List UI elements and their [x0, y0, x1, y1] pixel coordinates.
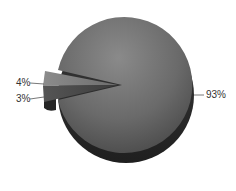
- label-4-percent: 4%: [16, 78, 30, 88]
- pie-chart: [0, 0, 236, 191]
- label-93-percent: 93%: [206, 90, 226, 100]
- label-3-percent: 3%: [16, 94, 30, 104]
- leader-line-3: [30, 97, 44, 99]
- leader-line-4: [30, 83, 44, 84]
